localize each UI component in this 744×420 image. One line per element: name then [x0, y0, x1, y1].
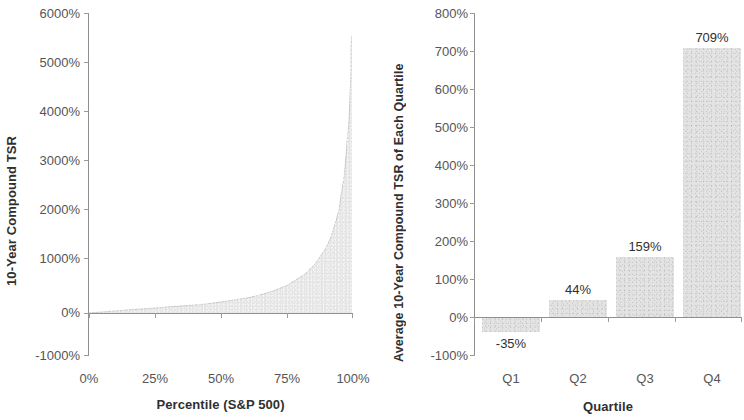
- bar-label-q2: 44%: [549, 282, 607, 297]
- two-panel-chart-figure: 10-Year Compound TSR 6000% 5000% 4000% 3…: [0, 0, 744, 420]
- y-tick-label-right-200: 200%: [400, 234, 468, 249]
- y-tick-label-right-neg100: -100%: [394, 348, 468, 363]
- y-tick-mark-right-neg100: [470, 355, 475, 356]
- x-tick-label-left-75: 75%: [262, 371, 312, 386]
- x-tick-mark-right-4: [741, 317, 742, 322]
- x-tick-mark-left-75: [287, 313, 288, 318]
- y-tick-label-right-400: 400%: [400, 158, 468, 173]
- bar-q2: [549, 300, 607, 317]
- x-tick-mark-right-0: [474, 317, 475, 322]
- bar-label-q3: 159%: [614, 239, 676, 254]
- y-tick-label-left-0: 0%: [8, 305, 80, 320]
- x-tick-label-left-25: 25%: [130, 371, 180, 386]
- x-tick-mark-right-1: [541, 317, 542, 322]
- bar-q3: [616, 257, 674, 317]
- x-tick-mark-left-50: [221, 313, 222, 318]
- y-tick-label-left-5000: 5000%: [8, 55, 80, 70]
- y-tick-mark-right-200: [470, 241, 475, 242]
- tsr-curve-fill: [89, 35, 352, 313]
- y-tick-mark-right-600: [470, 89, 475, 90]
- chart-panel-quartile-tsr: Average 10-Year Compound TSR of Each Qua…: [372, 0, 744, 420]
- x-tick-label-left-0: 0%: [64, 371, 114, 386]
- y-tick-label-right-500: 500%: [400, 120, 468, 135]
- x-tick-label-right-q2: Q2: [549, 371, 607, 386]
- y-tick-label-right-800: 800%: [400, 6, 468, 21]
- y-tick-mark-right-300: [470, 203, 475, 204]
- x-tick-label-right-q1: Q1: [482, 371, 540, 386]
- x-tick-mark-left-100: [352, 313, 353, 318]
- y-tick-label-left-3000: 3000%: [8, 153, 80, 168]
- y-tick-mark-right-700: [470, 51, 475, 52]
- bar-label-q4: 709%: [681, 30, 743, 45]
- y-tick-label-right-100: 100%: [400, 272, 468, 287]
- y-tick-label-right-300: 300%: [400, 196, 468, 211]
- x-tick-label-right-q4: Q4: [683, 371, 741, 386]
- y-tick-label-right-700: 700%: [400, 44, 468, 59]
- y-tick-mark-left-neg1000: [84, 355, 89, 356]
- y-tick-mark-right-100: [470, 279, 475, 280]
- x-tick-mark-right-3: [675, 317, 676, 322]
- y-tick-mark-right-500: [470, 127, 475, 128]
- y-tick-label-left-neg1000: -1000%: [8, 348, 80, 363]
- tsr-distribution-area: [89, 13, 352, 313]
- x-tick-label-left-50: 50%: [196, 371, 246, 386]
- y-tick-label-left-6000: 6000%: [8, 6, 80, 21]
- y-tick-label-left-2000: 2000%: [8, 202, 80, 217]
- y-tick-label-left-4000: 4000%: [8, 104, 80, 119]
- y-tick-label-right-600: 600%: [400, 82, 468, 97]
- tsr-distribution-svg: [89, 13, 352, 313]
- y-axis-line-right: [474, 13, 475, 355]
- y-tick-mark-right-400: [470, 165, 475, 166]
- bar-label-q1: -35%: [482, 336, 540, 351]
- y-tick-mark-right-800: [470, 13, 475, 14]
- bar-q1: [482, 318, 540, 332]
- y-tick-label-right-0: 0%: [400, 310, 468, 325]
- bar-q4: [683, 48, 741, 317]
- x-tick-mark-left-25: [155, 313, 156, 318]
- x-tick-label-right-q3: Q3: [616, 371, 674, 386]
- y-tick-label-left-1000: 1000%: [8, 251, 80, 266]
- x-tick-mark-right-2: [608, 317, 609, 322]
- chart-panel-percentile-tsr: 10-Year Compound TSR 6000% 5000% 4000% 3…: [0, 0, 372, 420]
- x-tick-mark-left-0: [89, 313, 90, 318]
- x-axis-title-left: Percentile (S&P 500): [89, 397, 352, 412]
- x-axis-title-right: Quartile: [474, 399, 742, 414]
